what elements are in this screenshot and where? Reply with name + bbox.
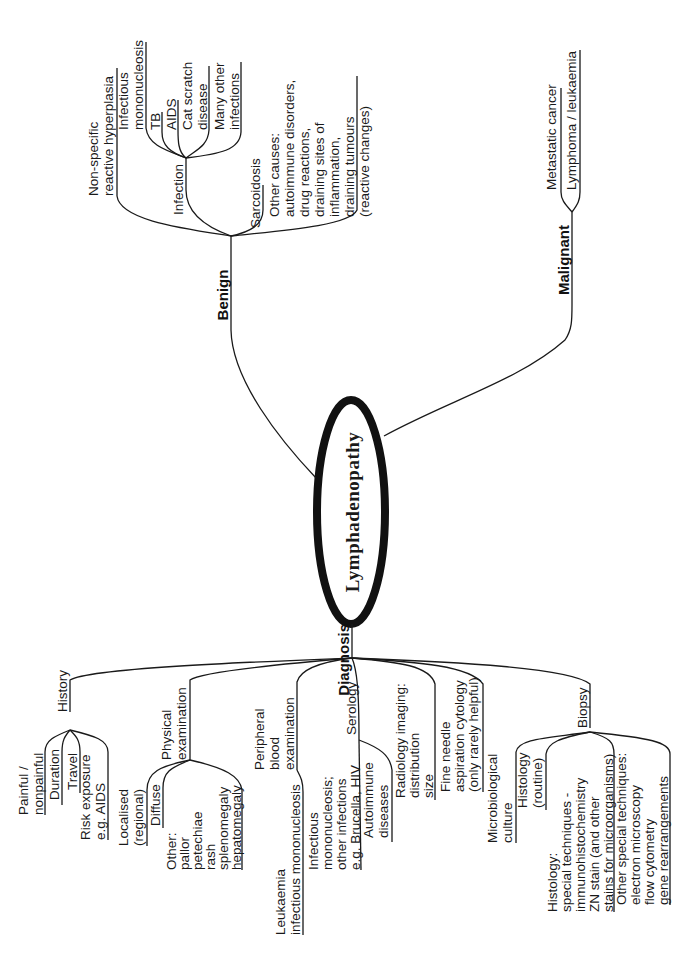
node-serology-infectious: Infectious mononucleosis; other infectio… <box>306 765 363 870</box>
node-histology-routine: Histology (routine) <box>515 749 545 808</box>
node-painful: Painful / nonpainful <box>16 753 46 815</box>
node-serology: Serology <box>344 681 359 735</box>
branch-malignant: Malignant Metastatic cancer Lymphoma / l… <box>384 50 580 436</box>
branch-benign: Benign Non-specific reactive hyperplasia… <box>86 40 372 478</box>
node-other-signs: Other: pallor petechiae rash splenomegal… <box>164 783 244 870</box>
node-duration: Duration <box>47 749 62 800</box>
node-localised: Localised (regional) <box>116 785 146 846</box>
mind-map: Lymphadenopathy Benign Non-specific reac… <box>0 0 683 958</box>
node-micro: Microbiological culture <box>485 750 515 843</box>
node-risk: Risk exposure e.g. AIDS <box>78 751 108 840</box>
node-lymphoma: Lymphoma / leukaemia <box>564 50 579 190</box>
node-cat-scratch: Cat scratch disease <box>180 58 210 130</box>
node-nonspecific: Non-specific reactive hyperplasia <box>86 75 116 196</box>
benign-label: Benign <box>214 270 231 321</box>
node-tb: TB <box>148 113 163 130</box>
center-node: Lymphadenopathy <box>317 400 385 624</box>
node-physical: Physical examination <box>159 687 189 760</box>
connector-diffuse <box>163 760 190 828</box>
node-other-special: Other special techniques: electron micro… <box>614 749 671 905</box>
connector-infection <box>186 158 231 236</box>
node-autoimmune: Autoimmune diseases <box>361 758 391 838</box>
node-infection: Infection <box>171 164 186 215</box>
node-fna: Fine needle aspiration cytology (only ra… <box>438 676 481 792</box>
node-radiology: Radiology imaging: distribution size <box>393 679 436 798</box>
connector-benign <box>231 236 316 478</box>
node-aids: AIDS <box>164 98 179 130</box>
node-leukaemia: Leukaemia infectious mononucleosis <box>273 784 303 935</box>
branch-diagnosis: Diagnosis History Painful / nonpainful D… <box>16 624 671 935</box>
node-infectious-mono: Infectious mononucleosis <box>116 40 146 130</box>
node-metastatic: Metastatic cancer <box>544 84 559 190</box>
node-biopsy: Biopsy <box>575 687 590 728</box>
node-many-other: Many other infections <box>212 59 242 130</box>
malignant-label: Malignant <box>555 225 572 295</box>
connector-history <box>70 658 352 712</box>
node-other-causes: Other causes: autoimmune disorders, drug… <box>267 76 372 217</box>
node-peripheral: Peripheral blood examination <box>252 697 297 770</box>
node-history: History <box>55 670 70 712</box>
center-label: Lymphadenopathy <box>342 432 363 593</box>
node-histology-special: Histology: special techniques - immunohi… <box>545 754 616 912</box>
node-sarcoidosis: Sarcoidosis <box>248 158 263 228</box>
connector-malignant <box>384 212 572 436</box>
node-diffuse: Diffuse <box>148 784 163 826</box>
